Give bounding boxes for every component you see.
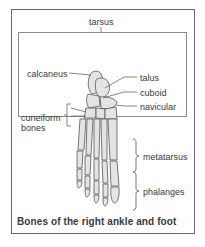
phalanges-brace [133,172,139,210]
right-braces [133,139,139,210]
navicular-leader [116,105,137,106]
cuneiform-lateral [84,108,96,118]
phalanges-label: phalanges [143,187,185,197]
metatarsal-1 [108,119,117,160]
metatarsal-4 [86,119,93,155]
calcaneus-label: calcaneus [27,69,68,79]
cuboid-bone [87,94,100,108]
metatarsal-5 [78,119,86,150]
metatarsus-brace [133,139,139,172]
foot-bones [77,71,119,206]
cuneiform-medial [105,107,117,119]
diagram-caption: Bones of the right ankle and foot [17,216,176,227]
tarsus-label: tarsus [89,17,114,27]
cuneiform-intermediate [96,108,105,119]
metatarsal-3 [94,119,100,158]
cuneiform-label-line1: cuneiform [21,113,61,123]
navicular-label: navicular [140,102,176,112]
cuneiform-label-line2: bones [21,123,46,133]
metatarsal-2 [101,119,107,160]
calcaneus-leader [69,73,91,75]
talus-bone [95,78,109,98]
cuneiform-bracket [67,104,71,126]
metatarsus-label: metatarsus [143,152,188,162]
talus-label: talus [140,73,159,83]
cuboid-label: cuboid [140,88,167,98]
